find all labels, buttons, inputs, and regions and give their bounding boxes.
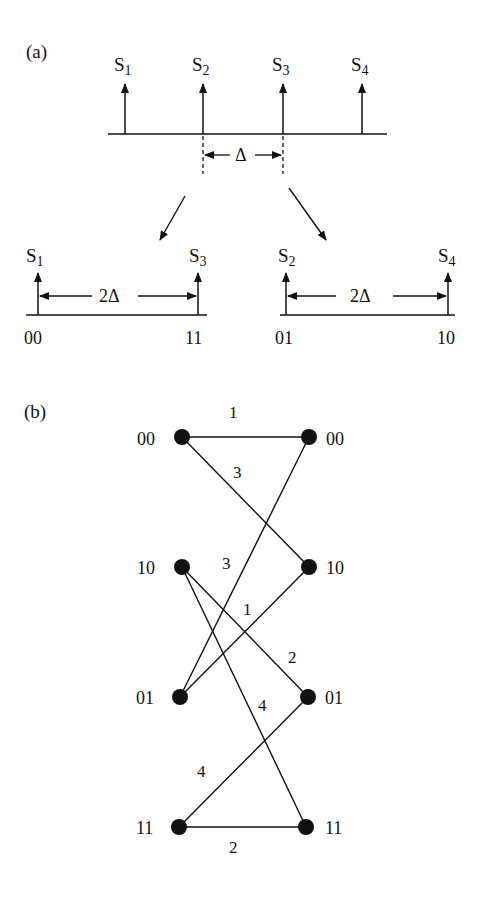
right-subset: S2 S4 2Δ 01 10 (275, 245, 456, 348)
label-s1: S1 (114, 54, 132, 78)
node-right-01 (300, 689, 316, 705)
node-right-11 (298, 819, 314, 835)
split-arrow-right (289, 188, 326, 240)
panel-b: (b) 1 3 2 4 3 1 4 2 00 10 (24, 401, 344, 857)
bit-label-01: 01 (275, 328, 293, 348)
left-node-label-00: 00 (137, 429, 155, 449)
node-right-10 (301, 559, 317, 575)
label-s3: S3 (272, 54, 290, 78)
label-s4: S4 (351, 54, 369, 78)
left-node-label-01: 01 (136, 688, 154, 708)
left-node-label-10: 10 (137, 558, 155, 578)
diagram-canvas: (a) S1 S2 S3 S4 Δ S1 S3 2Δ (0, 0, 478, 912)
node-left-10 (174, 559, 190, 575)
split-arrow-left (160, 196, 185, 240)
bit-label-11: 11 (185, 328, 202, 348)
weight-11-11: 2 (229, 838, 238, 857)
weight-01-00: 3 (222, 554, 231, 573)
node-right-00 (301, 429, 317, 445)
left-subset: S1 S3 2Δ 00 11 (24, 245, 207, 348)
label-s2: S2 (192, 54, 210, 78)
spacing-label: 2Δ (350, 286, 371, 306)
node-left-01 (172, 689, 188, 705)
label-s4: S4 (438, 245, 456, 269)
weight-10-01: 2 (288, 648, 297, 667)
edge-00-10 (182, 437, 309, 567)
weight-00-00: 1 (229, 403, 238, 422)
weight-10-11: 4 (258, 696, 267, 715)
panel-a-label: (a) (26, 41, 47, 63)
right-node-label-10: 10 (326, 558, 344, 578)
node-left-11 (171, 819, 187, 835)
weight-00-10: 3 (233, 463, 242, 482)
panel-a: (a) S1 S2 S3 S4 Δ S1 S3 2Δ (24, 41, 456, 348)
spacing-label: 2Δ (99, 286, 120, 306)
label-s1: S1 (26, 245, 44, 269)
weight-01-10: 1 (243, 600, 252, 619)
right-node-label-01: 01 (325, 688, 343, 708)
bit-label-00: 00 (24, 328, 42, 348)
label-s3: S3 (189, 245, 207, 269)
left-node-label-11: 11 (136, 818, 153, 838)
panel-b-label: (b) (24, 401, 46, 423)
weight-11-01: 4 (197, 762, 206, 781)
node-left-00 (174, 429, 190, 445)
right-node-label-00: 00 (326, 429, 344, 449)
label-s2: S2 (278, 245, 296, 269)
bit-label-10: 10 (437, 328, 455, 348)
delta-label: Δ (235, 145, 247, 165)
right-node-label-11: 11 (325, 818, 342, 838)
